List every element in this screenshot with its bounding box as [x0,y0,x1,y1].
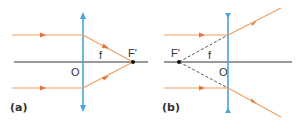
origin-label-a: O [71,66,80,78]
diagram-a: O f F' (a) [10,12,148,114]
caption-a: (a) [10,101,27,114]
lens-top-arrow-icon [80,12,86,19]
refracted-ray-top-b [228,8,281,35]
focal-length-label-b: f [208,49,212,61]
focal-point-dot-b [177,60,181,64]
ray-arrow-icon [199,33,205,38]
focal-point-label-b: F' [171,47,180,59]
ray-arrow-icon [102,44,109,49]
lens-diagrams: O f F' (a) F' f O (b) [0,0,300,125]
ray-arrow-icon [199,86,205,91]
lens-top-arrow-icon [225,13,231,18]
lens-bottom-arrow-icon [225,108,231,113]
caption-b: (b) [162,101,180,114]
ray-arrow-icon [40,33,46,38]
ray-arrow-icon [102,76,109,81]
refracted-ray-bottom-a [83,62,133,88]
focal-length-label-a: f [99,49,103,61]
origin-label-b: O [219,66,228,78]
lens-bottom-arrow-icon [80,105,86,112]
focal-point-label-a: F' [128,47,137,59]
refracted-ray-top-a [83,35,133,62]
diagram-b: F' f O (b) [162,8,292,117]
ray-arrow-icon [40,86,46,91]
construction-line-top [179,35,228,62]
focal-point-dot-a [131,60,135,64]
